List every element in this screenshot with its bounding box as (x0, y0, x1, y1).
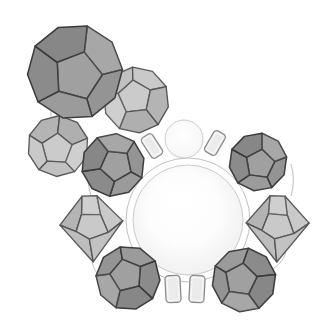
dodecahedron-right-upper (227, 129, 290, 194)
upper-sphere-small (165, 120, 203, 158)
capsule-upper-left-body (140, 132, 164, 159)
capsule-lower-left (165, 275, 181, 303)
capsule-upper-right (203, 129, 226, 156)
structure-figure (0, 0, 328, 331)
figure-canvas (0, 0, 328, 331)
capsule-lower-right (189, 275, 205, 303)
capsule-upper-left (140, 132, 164, 159)
link-arc-right (291, 164, 293, 196)
bicone-right-shading (268, 196, 288, 216)
